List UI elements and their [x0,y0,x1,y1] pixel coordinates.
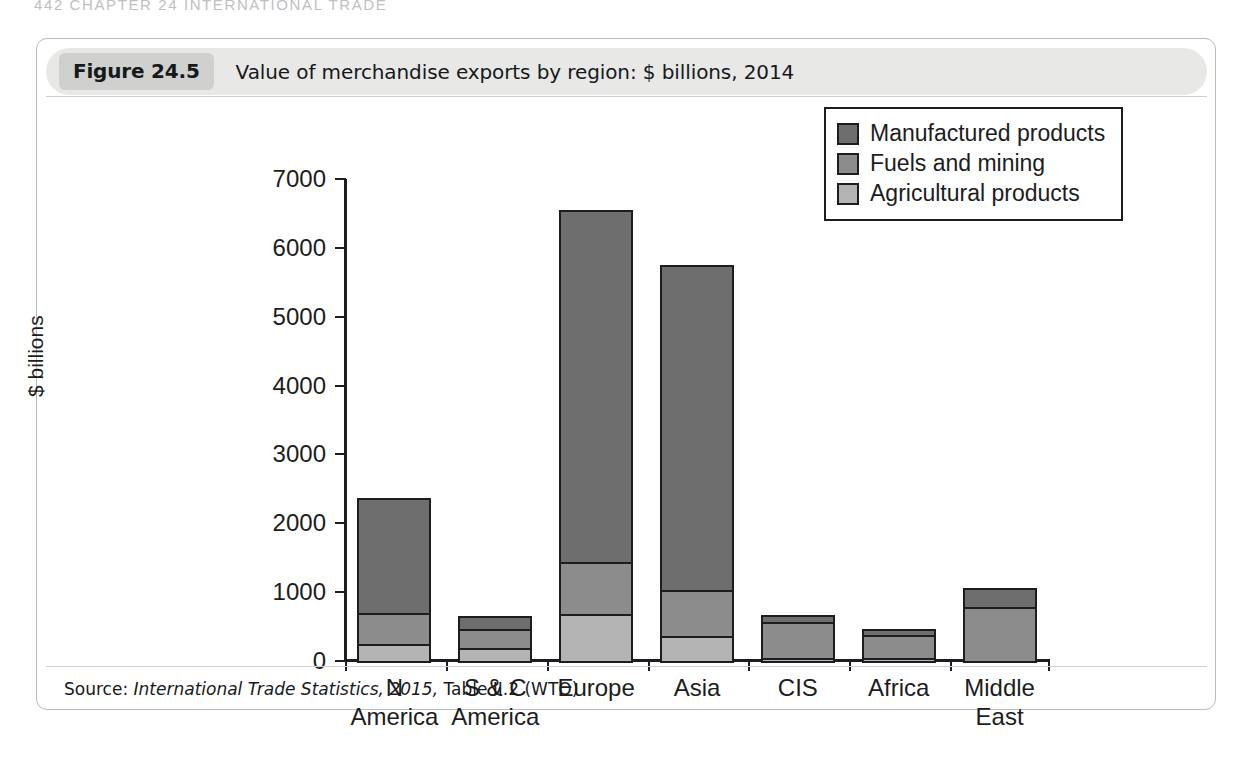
bar-segment [660,590,734,638]
bar-4 [660,179,734,661]
bar-segment [660,636,734,663]
y-axis-tick-label: 7000 [241,165,326,193]
y-axis-line [344,179,347,661]
source-suffix: Table II.2 (WTO) [443,679,578,699]
bar-segment [761,615,835,625]
bar-5 [761,179,835,661]
bar-6 [862,179,936,661]
bar-segment [559,562,633,616]
bar-segment [862,629,936,637]
bar-segment [862,635,936,660]
bar-segment [559,614,633,663]
legend-label: Manufactured products [870,120,1105,147]
figure-title-bar: Figure 24.5 Value of merchandise exports… [46,48,1207,95]
bar-1 [357,179,431,661]
figure-title: Value of merchandise exports by region: … [236,60,795,84]
source-text: Source: International Trade Statistics, … [64,679,578,699]
figure-card: Figure 24.5 Value of merchandise exports… [36,38,1216,710]
y-axis-tick-label: 3000 [241,440,326,468]
legend-label: Fuels and mining [870,150,1045,177]
running-head: 442 CHAPTER 24 INTERNATIONAL TRADE [34,0,387,13]
y-axis-tick-label: 2000 [241,509,326,537]
bar-segment [963,607,1037,663]
bar-segment [660,265,734,592]
bar-segment [458,616,532,631]
y-axis-tick-label: 6000 [241,234,326,262]
chart-plot-area: $ billions 01000200030004000500060007000… [46,96,1207,666]
bar-segment [761,622,835,659]
y-axis-tick-label: 1000 [241,578,326,606]
y-axis-title: $ billions [24,315,48,397]
bar-segment [458,648,532,663]
bar-7 [963,179,1037,661]
figure-number-chip: Figure 24.5 [59,53,214,90]
legend-item: Manufactured products [837,120,1105,147]
legend-swatch-icon [837,123,859,145]
legend-item: Agricultural products [837,180,1105,207]
source-prefix: Source: [64,679,128,699]
legend-label: Agricultural products [870,180,1080,207]
bar-segment [559,210,633,564]
bar-segment [357,644,431,663]
legend-item: Fuels and mining [837,150,1105,177]
bar-segment [458,629,532,650]
legend-swatch-icon [837,153,859,175]
bar-segment [963,588,1037,609]
y-axis-tick-label: 5000 [241,303,326,331]
y-axis-tick-label: 4000 [241,372,326,400]
chart-legend: Manufactured productsFuels and miningAgr… [824,107,1123,221]
bar-2 [458,179,532,661]
bar-segment [357,613,431,645]
bar-3 [559,179,633,661]
source-title: International Trade Statistics, 2015, [134,679,439,699]
legend-swatch-icon [837,183,859,205]
source-bar: Source: International Trade Statistics, … [46,666,1207,710]
bar-segment [357,498,431,615]
